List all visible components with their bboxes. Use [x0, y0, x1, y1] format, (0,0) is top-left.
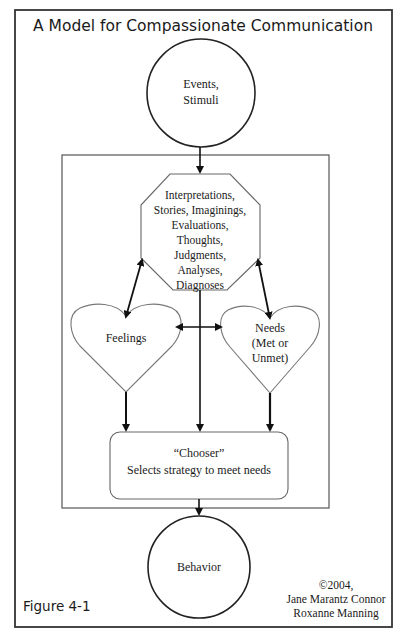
copyright-line-2: Jane Marantz Connor: [287, 593, 386, 605]
copyright-line-1: ©2004,: [319, 579, 354, 592]
chooser-label-line-1: “Chooser”: [174, 446, 225, 460]
compassionate-communication-diagram: A Model for Compassionate Communication …: [0, 0, 403, 639]
arrow-interpretations-needs: [258, 260, 269, 314]
chooser-label-line-2: Selects strategy to meet needs: [127, 463, 271, 477]
node-events: Events, Stimuli: [147, 39, 255, 147]
events-label-line-2: Stimuli: [183, 93, 219, 107]
copyright-block: ©2004, Jane Marantz Connor Roxanne Manni…: [287, 579, 386, 620]
interpretations-line-2: Stories, Imaginings,: [154, 204, 246, 217]
needs-label-line-2: (Met or: [252, 336, 288, 350]
behavior-label: Behavior: [177, 560, 221, 574]
needs-label-line-3: Unmet): [252, 351, 289, 365]
node-behavior: Behavior: [148, 516, 250, 618]
interpretations-line-1: Interpretations,: [165, 189, 235, 202]
interpretations-line-5: Judgments,: [174, 249, 226, 262]
events-label-line-1: Events,: [183, 77, 219, 91]
needs-label-line-1: Needs: [255, 321, 285, 335]
interpretations-line-3: Evaluations,: [171, 219, 228, 232]
feelings-label: Feelings: [106, 331, 147, 345]
node-needs: Needs (Met or Unmet): [221, 306, 320, 393]
diagram-title: A Model for Compassionate Communication: [33, 17, 373, 35]
node-feelings: Feelings: [71, 304, 181, 392]
arrow-interpretations-feelings: [127, 260, 142, 313]
node-chooser: “Chooser” Selects strategy to meet needs: [110, 432, 288, 499]
node-interpretations: Interpretations, Stories, Imaginings, Ev…: [141, 174, 260, 292]
interpretations-line-6: Analyses,: [177, 264, 222, 277]
figure-label: Figure 4-1: [23, 598, 91, 614]
copyright-line-3: Roxanne Manning: [293, 607, 379, 620]
interpretations-line-4: Thoughts,: [177, 234, 223, 247]
